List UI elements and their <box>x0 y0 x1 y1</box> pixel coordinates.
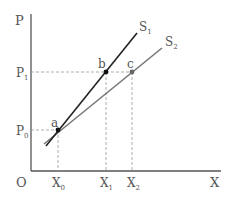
x-axis-label: X <box>210 175 220 190</box>
point-label-c: c <box>127 57 134 71</box>
tick-p1: P1 <box>16 66 29 82</box>
guide-lines <box>31 72 132 171</box>
tick-p0: P0 <box>16 124 29 140</box>
tick-x1: X1 <box>100 176 113 192</box>
point-label-b: b <box>98 57 106 71</box>
tick-x2: X2 <box>127 176 140 192</box>
point-label-a: a <box>51 116 58 130</box>
curve-label-s2: S2 <box>165 35 178 51</box>
curve-label-s1: S1 <box>139 20 152 36</box>
diagram-canvas: P X O P1 P0 X0 X1 X2 S1 S2 a b c <box>0 0 235 200</box>
y-axis-label: P <box>15 13 24 28</box>
tick-x0: X0 <box>52 176 65 192</box>
origin-label: O <box>16 175 27 190</box>
